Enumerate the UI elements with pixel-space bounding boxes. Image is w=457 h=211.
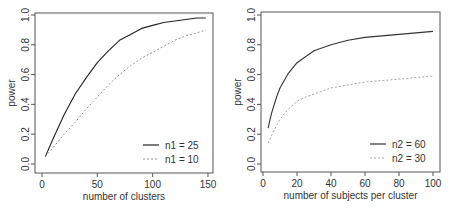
- x-tick-label: 60: [359, 178, 371, 189]
- y-tick-label: 1.0: [246, 8, 257, 22]
- x-axis-label: number of clusters: [83, 191, 165, 202]
- y-tick-label: 0.2: [246, 127, 257, 141]
- x-tick-label: 100: [425, 178, 442, 189]
- legend-label: n1 = 10: [165, 154, 199, 165]
- x-tick-label: 0: [39, 179, 45, 190]
- y-tick-label: 0.4: [246, 97, 257, 111]
- y-axis-label: power: [6, 79, 17, 107]
- x-tick-label: 150: [200, 179, 217, 190]
- figure: 0.00.20.40.60.81.0050100150number of clu…: [0, 0, 457, 211]
- chart-power-vs-clusters: 0.00.20.40.60.81.0050100150number of clu…: [0, 0, 228, 211]
- x-tick-label: 50: [92, 179, 104, 190]
- y-tick-label: 0.6: [20, 67, 31, 81]
- y-tick-label: 0.2: [20, 127, 31, 141]
- series-line: [45, 30, 206, 157]
- x-tick-label: 40: [325, 178, 337, 189]
- y-tick-label: 0.4: [20, 97, 31, 111]
- y-tick-label: 0.6: [246, 67, 257, 81]
- y-tick-label: 1.0: [20, 8, 31, 22]
- x-tick-label: 0: [260, 178, 266, 189]
- series-line: [268, 76, 433, 143]
- legend-label: n2 = 60: [392, 139, 426, 150]
- legend-label: n2 = 30: [392, 153, 426, 164]
- series-line: [268, 31, 433, 128]
- x-tick-label: 20: [291, 178, 303, 189]
- series-line: [45, 18, 206, 157]
- chart-power-vs-subjects: 0.00.20.40.60.81.0020406080100number of …: [227, 0, 457, 211]
- y-tick-label: 0.8: [246, 37, 257, 51]
- x-tick-label: 80: [393, 178, 405, 189]
- x-axis-label: number of subjects per cluster: [284, 190, 419, 201]
- y-tick-label: 0.0: [246, 157, 257, 171]
- x-tick-label: 100: [144, 179, 161, 190]
- y-axis-label: power: [232, 78, 243, 106]
- y-tick-label: 0.0: [20, 157, 31, 171]
- y-tick-label: 0.8: [20, 37, 31, 51]
- legend-label: n1 = 25: [165, 140, 199, 151]
